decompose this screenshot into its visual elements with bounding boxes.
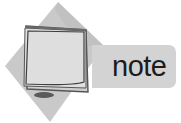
note-label: note: [112, 47, 174, 85]
sticky-note-sheet: [26, 31, 84, 85]
note-callout-icon: note: [0, 0, 181, 123]
